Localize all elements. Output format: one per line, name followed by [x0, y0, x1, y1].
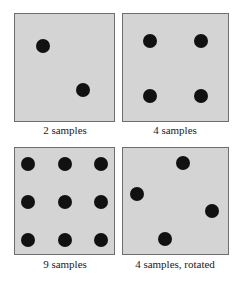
sample-dot [21, 195, 35, 209]
sample-dot [36, 39, 50, 53]
sample-dot [94, 195, 108, 209]
sample-dot [176, 156, 190, 170]
sample-dot [94, 233, 108, 247]
sample-dot [21, 157, 35, 171]
sample-dot [58, 195, 72, 209]
panel-4-samples [122, 13, 229, 122]
sample-dot [205, 204, 219, 218]
sample-dot [94, 157, 108, 171]
sample-dot [194, 34, 208, 48]
sample-dot [143, 34, 157, 48]
sample-dot [21, 233, 35, 247]
caption-9-samples: 9 samples [43, 258, 87, 270]
sample-dot [143, 89, 157, 103]
panel-2-samples [14, 13, 115, 122]
sample-dot [158, 232, 172, 246]
sample-dot [58, 233, 72, 247]
caption-2-samples: 2 samples [43, 124, 87, 136]
sample-dot [76, 83, 90, 97]
caption-4-samples: 4 samples [153, 124, 197, 136]
sample-dot [194, 89, 208, 103]
caption-4-samples-rotated: 4 samples, rotated [135, 258, 215, 270]
sample-dot [58, 157, 72, 171]
sample-dot [130, 187, 144, 201]
